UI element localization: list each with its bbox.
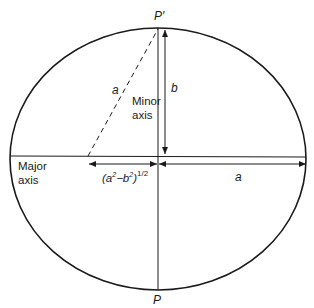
focus-to-p-prime-dashed-line [88, 29, 158, 156]
ellipse-diagram: P′ P b a Minor axis Major axis a (a2−b2)… [0, 0, 314, 308]
focal-distance-formula: (a2−b2)1/2 [102, 169, 149, 184]
major-axis-label-line1: Major [18, 160, 47, 172]
p-prime-label: P′ [154, 9, 165, 23]
major-axis-label-line2: axis [18, 174, 39, 186]
minor-axis-label-line1: Minor [132, 95, 161, 107]
p-label: P [153, 293, 161, 307]
minor-axis-label-line2: axis [132, 109, 153, 121]
a-right-label: a [235, 170, 242, 184]
a-dashed-label: a [112, 83, 119, 97]
b-label: b [171, 81, 178, 95]
